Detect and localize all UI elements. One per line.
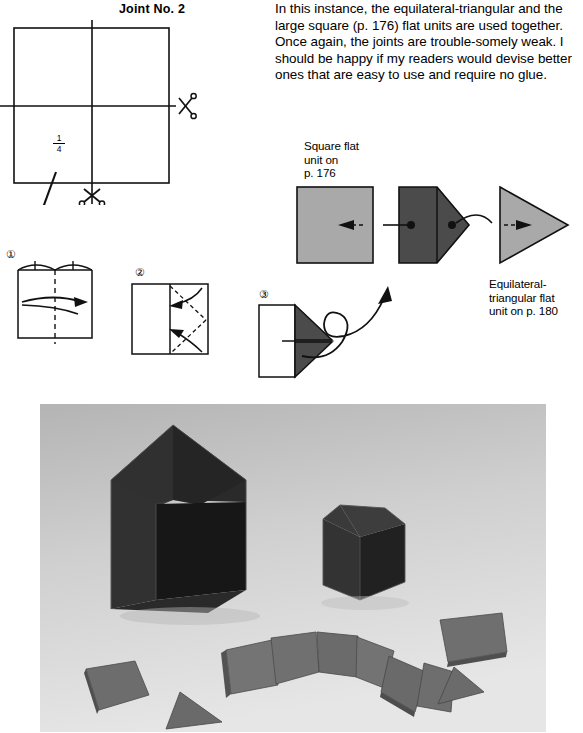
loop-arrow-svg (280, 280, 425, 395)
step-1-figure (12, 258, 104, 344)
cube-model (323, 505, 405, 600)
fraction-numerator: 1 (51, 134, 67, 143)
prism-shadow (120, 607, 260, 625)
loop-arrow-path (302, 298, 384, 357)
page-title: Joint No. 2 (72, 2, 232, 16)
step-2-figure (128, 280, 220, 358)
fraction-denominator: 4 (51, 145, 67, 154)
page-root: Joint No. 2 In this instance, the equila… (0, 0, 583, 733)
construction-square-svg (0, 20, 240, 205)
loop-arrow-to-assembly (280, 280, 425, 395)
square-unit-label-line-2: unit on (304, 153, 338, 166)
step-number-3: ③ (259, 289, 269, 300)
cube-shadow (321, 596, 409, 610)
triangular-flat-unit-shape (500, 187, 568, 263)
assembly-diagram-svg (280, 175, 583, 290)
step-1-svg (12, 258, 104, 344)
step-2-svg (128, 280, 220, 358)
insert-dot-right (448, 221, 456, 229)
finished-models-photograph (40, 404, 546, 732)
assembly-diagram (280, 175, 583, 290)
insert-dot-left (407, 221, 415, 229)
flat-unit-square-2 (226, 640, 278, 694)
scissors-icon (179, 93, 196, 118)
flow-arrow-to-step-1 (24, 172, 56, 205)
photograph-svg (40, 404, 546, 732)
flat-unit-square-4 (317, 632, 358, 677)
fraction-label-one-quarter: 1 4 (51, 134, 67, 153)
square-unit-label-line-1: Square flat (304, 139, 359, 152)
step-number-2: ② (135, 267, 145, 278)
triangular-unit-label-line-3: unit on p. 180 (489, 304, 558, 317)
construction-diagram (0, 20, 240, 205)
square-unit-label: Square flat unit on p. 176 (304, 139, 399, 180)
body-paragraph: In this instance, the equilateral-triang… (275, 1, 573, 84)
triangular-unit-label-line-2: triangular flat (489, 291, 555, 304)
